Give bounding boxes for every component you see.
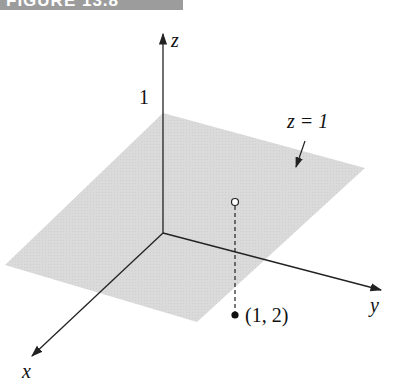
figure-canvas: FIGURE 13.8 z y x 1: [0, 0, 396, 385]
z-axis-label: z: [170, 29, 179, 51]
point-label: (1, 2): [245, 304, 288, 327]
x-axis-label: x: [21, 360, 31, 382]
plane-label-text: z = 1: [286, 110, 328, 132]
y-axis-label: y: [368, 294, 379, 317]
plane-label: z = 1: [286, 110, 328, 132]
z-tick-label: 1: [139, 86, 149, 108]
filled-point: [231, 311, 238, 318]
plane-z-equals-1: [5, 113, 365, 322]
hollow-point-on-plane: [232, 199, 239, 206]
3d-plot: z y x 1 z = 1 (1, 2): [0, 0, 396, 385]
